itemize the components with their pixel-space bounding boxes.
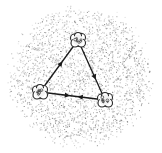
node-top: [71, 33, 86, 48]
node-bottom-left: [33, 85, 48, 100]
triangle-diagram: [0, 0, 162, 153]
diagram-canvas: [0, 0, 162, 153]
speckled-background: [7, 6, 153, 149]
edge-line: [40, 40, 78, 92]
node-bottom-right: [98, 93, 113, 108]
